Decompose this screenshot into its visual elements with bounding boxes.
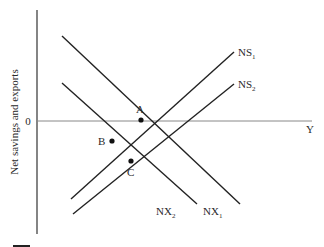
x-axis-label: Y xyxy=(306,123,314,135)
curve-ns2 xyxy=(73,84,234,214)
curve-label-nx2: NX2 xyxy=(156,205,176,220)
curve-nx1 xyxy=(62,36,240,204)
origin-label: 0 xyxy=(25,115,31,127)
point-label-b: B xyxy=(98,135,105,147)
y-axis-label: Net savings and exports xyxy=(8,69,20,174)
curve-ns1 xyxy=(71,52,234,199)
diagram-canvas: 0 Y Net savings and exports NS1NS2NX1NX2… xyxy=(0,0,324,247)
point-label-a: A xyxy=(136,103,144,115)
point-label-c: C xyxy=(127,166,134,178)
point-b xyxy=(109,138,114,143)
curve-label-nx1: NX1 xyxy=(203,205,223,220)
point-a xyxy=(138,117,143,122)
curve-label-ns2: NS2 xyxy=(238,78,256,93)
curve-label-ns1: NS1 xyxy=(238,46,256,61)
point-c xyxy=(128,158,133,163)
